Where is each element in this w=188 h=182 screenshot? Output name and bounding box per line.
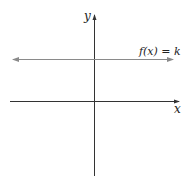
- function-label: f(x) = k: [138, 45, 181, 58]
- y-axis-label: y: [83, 9, 91, 23]
- graph: y x f(x) = k: [0, 0, 188, 182]
- x-axis-label: x: [174, 102, 181, 116]
